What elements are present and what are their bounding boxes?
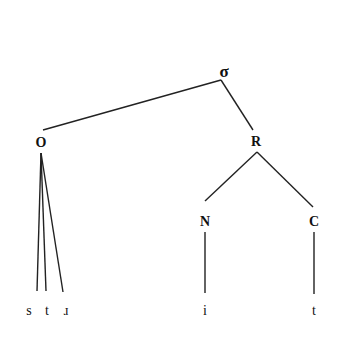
nucleus-node: N: [200, 215, 210, 229]
edge-R-N: [205, 152, 257, 201]
syllable-root-node: σ: [219, 63, 228, 80]
leaf-segment-t-coda: t: [312, 304, 316, 318]
edge-σ-O: [43, 80, 221, 130]
edge-R-C: [257, 152, 313, 207]
leaf-segment-t: t: [45, 304, 49, 318]
leaf-segment-s: s: [26, 304, 31, 318]
rime-node: R: [251, 135, 261, 149]
syllable-tree-diagram: σ O R N C s t ɹ i t: [0, 0, 338, 342]
tree-edges: [0, 0, 338, 342]
leaf-segment-r: ɹ: [64, 304, 69, 318]
onset-node: O: [36, 136, 47, 150]
leaf-segment-i: i: [203, 304, 207, 318]
edge-O-ɹ: [41, 153, 63, 292]
edge-O-t: [41, 153, 46, 291]
edge-σ-R: [221, 80, 253, 130]
edge-O-s: [37, 153, 41, 291]
coda-node: C: [309, 215, 319, 229]
